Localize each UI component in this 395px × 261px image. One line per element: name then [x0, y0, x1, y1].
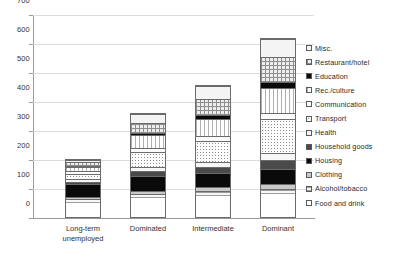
- legend-label: Clothing: [315, 170, 342, 179]
- bar-segment[interactable]: [196, 173, 230, 187]
- legend-item[interactable]: Transport: [306, 111, 392, 125]
- bar-segment[interactable]: [196, 86, 230, 100]
- bar-segment[interactable]: [261, 160, 295, 169]
- bar-segment[interactable]: [261, 57, 295, 82]
- legend-item[interactable]: Rec./culture: [306, 83, 392, 97]
- legend-item[interactable]: Food and drink: [306, 196, 392, 210]
- y-axis-tick-mark: [29, 160, 33, 161]
- x-axis-line: [33, 218, 315, 219]
- bar-segment[interactable]: [196, 119, 230, 136]
- y-axis-tick-labels: 0100200300400500600700: [0, 0, 30, 203]
- y-axis-tick-label: 700: [17, 0, 30, 5]
- y-axis-tick-mark: [29, 15, 33, 16]
- bar-segment[interactable]: [261, 153, 295, 160]
- y-axis-tick-mark: [29, 189, 33, 190]
- bar-column[interactable]: [130, 113, 166, 218]
- bar-segment[interactable]: [131, 152, 165, 167]
- legend-item[interactable]: Alcohol/tobacco: [306, 182, 392, 196]
- x-axis-category-label-line: Dominant: [233, 224, 323, 234]
- y-axis-tick-label: 400: [17, 83, 30, 92]
- legend-label: Education: [315, 72, 348, 81]
- y-axis-tick-label: 300: [17, 112, 30, 121]
- y-axis-tick-label: 500: [17, 54, 30, 63]
- y-axis-tick-mark: [29, 218, 33, 219]
- y-axis-tick-label: 100: [17, 170, 30, 179]
- bar-segment[interactable]: [131, 114, 165, 123]
- legend-label: Household goods: [315, 142, 372, 151]
- legend-item[interactable]: Education: [306, 69, 392, 83]
- legend-swatch-icon: [306, 172, 312, 178]
- legend-item[interactable]: Misc.: [306, 41, 392, 55]
- bar-column[interactable]: [260, 38, 296, 218]
- chart-legend: Misc.Restaurant/hotelEducationRec./cultu…: [306, 41, 392, 210]
- legend-item[interactable]: Communication: [306, 97, 392, 111]
- bar-segment[interactable]: [131, 135, 165, 148]
- legend-label: Communication: [315, 100, 366, 109]
- legend-item[interactable]: Household goods: [306, 140, 392, 154]
- legend-swatch-icon: [306, 59, 312, 65]
- legend-swatch-icon: [306, 130, 312, 136]
- y-axis-tick-label: 200: [17, 141, 30, 150]
- x-axis-category-label: Dominant: [233, 224, 323, 234]
- legend-swatch-icon: [306, 186, 312, 192]
- legend-item[interactable]: Restaurant/hotel: [306, 55, 392, 69]
- legend-item[interactable]: Housing: [306, 154, 392, 168]
- legend-label: Alcohol/tobacco: [315, 184, 367, 193]
- legend-label: Housing: [315, 156, 342, 165]
- bar-segment[interactable]: [261, 119, 295, 152]
- legend-swatch-icon: [306, 158, 312, 164]
- bar-segment[interactable]: [196, 196, 230, 217]
- bar-segment[interactable]: [196, 141, 230, 162]
- legend-item[interactable]: Clothing: [306, 168, 392, 182]
- plot-area: [33, 15, 314, 218]
- bar-column[interactable]: [195, 85, 231, 218]
- y-axis-tick-mark: [29, 73, 33, 74]
- legend-label: Rec./culture: [315, 86, 355, 95]
- legend-label: Misc.: [315, 44, 332, 53]
- bar-column[interactable]: [65, 159, 101, 218]
- bar-segment[interactable]: [66, 184, 100, 196]
- y-axis-tick-mark: [29, 102, 33, 103]
- legend-swatch-icon: [306, 73, 312, 79]
- legend-label: Food and drink: [315, 199, 364, 208]
- y-axis-tick-mark: [29, 44, 33, 45]
- bar-segment[interactable]: [66, 203, 100, 217]
- bar-segment[interactable]: [131, 123, 165, 133]
- legend-label: Restaurant/hotel: [315, 58, 369, 67]
- bar-segment[interactable]: [196, 99, 230, 115]
- gridline: [33, 15, 314, 16]
- legend-label: Transport: [315, 114, 346, 123]
- y-axis-tick-mark: [29, 131, 33, 132]
- legend-swatch-icon: [306, 200, 312, 206]
- legend-swatch-icon: [306, 144, 312, 150]
- legend-item[interactable]: Health: [306, 126, 392, 140]
- legend-swatch-icon: [306, 87, 312, 93]
- y-axis-tick-label: 0: [26, 199, 30, 208]
- bar-segment[interactable]: [261, 39, 295, 57]
- bar-segment[interactable]: [131, 198, 165, 217]
- x-axis-category-label-line: unemployed: [38, 234, 128, 244]
- bar-segment[interactable]: [261, 194, 295, 217]
- stacked-bar-chart: 0100200300400500600700 Long-termunemploy…: [0, 0, 395, 261]
- legend-label: Health: [315, 128, 336, 137]
- bar-segment[interactable]: [261, 169, 295, 184]
- legend-swatch-icon: [306, 45, 312, 51]
- bar-segment[interactable]: [261, 88, 295, 113]
- legend-swatch-icon: [306, 116, 312, 122]
- bar-segment[interactable]: [131, 176, 165, 191]
- legend-swatch-icon: [306, 101, 312, 107]
- y-axis-tick-label: 600: [17, 25, 30, 34]
